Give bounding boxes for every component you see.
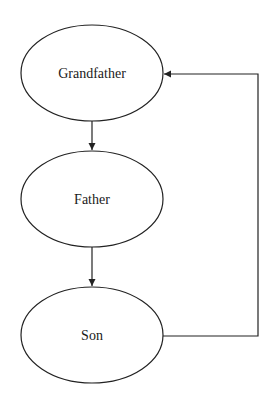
- node-grandfather: Grandfather: [21, 25, 163, 121]
- node-father-label: Father: [74, 192, 110, 207]
- node-son-label: Son: [81, 328, 103, 343]
- node-grandfather-label: Grandfather: [58, 66, 126, 81]
- node-son: Son: [21, 287, 163, 383]
- edge-son-to-grandfather: [163, 74, 258, 336]
- node-father: Father: [21, 151, 163, 247]
- family-diagram: Grandfather Father Son: [0, 0, 275, 403]
